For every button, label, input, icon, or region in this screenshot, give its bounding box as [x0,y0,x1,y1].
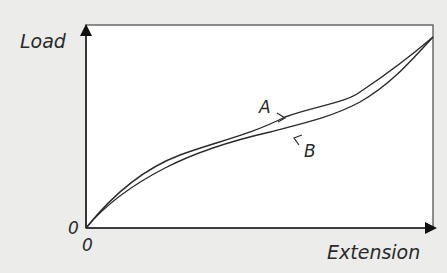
y-axis-label: Load [20,32,66,51]
curve-a-label: A [259,99,271,116]
x-origin-label: 0 [82,237,93,254]
y-origin-label: 0 [68,220,79,237]
plot-area [86,25,433,228]
curve-b-label: B [304,143,316,160]
x-axis-label: Extension [327,243,420,262]
